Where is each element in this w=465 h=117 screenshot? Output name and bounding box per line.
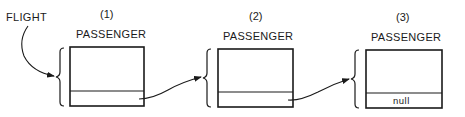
link-arrow-1-to-2 <box>139 77 201 99</box>
link-arrow-2-to-3 <box>288 79 349 100</box>
node-3-index: (3) <box>396 11 409 23</box>
node-1-index: (1) <box>100 8 113 20</box>
brace-icon <box>203 49 211 107</box>
flight-pointer-arrow <box>22 26 54 76</box>
node-box <box>218 49 293 107</box>
node-1-type-label: PASSENGER <box>76 28 146 40</box>
node-2-type-label: PASSENGER <box>223 30 293 42</box>
node-box <box>70 47 144 106</box>
node-3-type-label: PASSENGER <box>371 31 441 43</box>
flight-label: FLIGHT <box>6 11 47 23</box>
brace-icon <box>351 50 359 108</box>
brace-icon <box>56 48 64 106</box>
node-1 <box>56 47 144 106</box>
node-2 <box>203 49 293 107</box>
node-2-index: (2) <box>249 10 262 22</box>
node-3-next-null: null <box>393 95 410 106</box>
